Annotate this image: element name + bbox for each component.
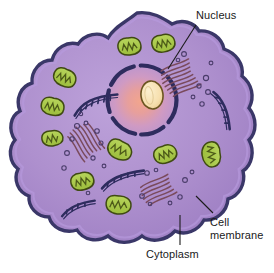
label-nucleus: Nucleus — [196, 9, 236, 22]
label-cell-membrane-line2: membrane — [210, 229, 263, 241]
mitochondrion — [117, 37, 142, 57]
cell-diagram: Nucleus Cellmembrane Cytoplasm — [0, 0, 274, 273]
label-cell-membrane: Cellmembrane — [210, 216, 263, 241]
label-cytoplasm: Cytoplasm — [146, 248, 199, 261]
nucleus — [108, 66, 177, 135]
label-cell-membrane-line1: Cell — [210, 216, 229, 228]
